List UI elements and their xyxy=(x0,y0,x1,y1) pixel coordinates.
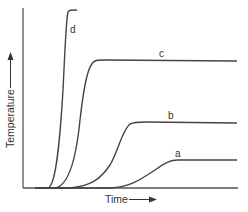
curve-d xyxy=(35,10,77,188)
curve-a xyxy=(35,160,237,188)
x-axis-label: Time xyxy=(105,193,128,205)
curve-d-label: d xyxy=(70,24,76,35)
y-axis-label: Temperature xyxy=(4,89,16,148)
curve-a-label: a xyxy=(175,148,181,159)
curve-c-label: c xyxy=(159,48,164,59)
curve-c xyxy=(35,60,237,188)
curve-b-label: b xyxy=(168,110,174,121)
x-axis-label-group: Time xyxy=(105,193,157,205)
x-axis-arrow-head-icon xyxy=(149,197,157,203)
curve-b xyxy=(35,122,237,188)
temperature-time-chart: a b c d Temperature Time xyxy=(0,0,248,212)
y-axis-arrow-head-icon xyxy=(8,52,14,60)
y-axis-label-group: Temperature xyxy=(4,52,16,148)
